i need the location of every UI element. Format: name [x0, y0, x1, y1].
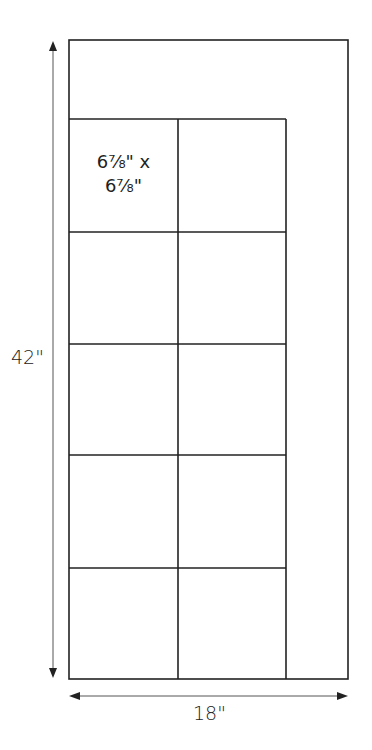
height-label: 42" — [11, 346, 44, 368]
quilt-diagram: 6⅞" x 6⅞" 42" 18" — [0, 0, 372, 750]
width-arrow — [69, 692, 348, 700]
width-label: 18" — [193, 702, 226, 724]
block-size-line1: 6⅞" x — [69, 150, 178, 174]
height-arrow — [49, 41, 57, 678]
block-size-line2: 6⅞" — [69, 174, 178, 198]
outer-panel — [69, 40, 348, 679]
diagram-lines — [0, 0, 372, 750]
block-size-label: 6⅞" x 6⅞" — [69, 150, 178, 198]
